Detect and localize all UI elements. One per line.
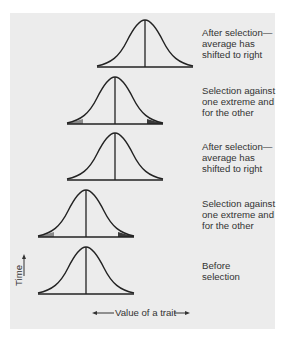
trait-left-arrow-icon [92,311,114,315]
stage-label-after-selection-middle: After selection— average has shifted to … [202,141,272,174]
stage-label-after-selection-top: After selection— average has shifted to … [202,27,272,60]
stage-label-before-selection: Before selection [202,260,240,282]
stage-label-selection-1: Selection against one extreme and for th… [202,198,275,231]
left-tail-shading [67,119,83,124]
right-tail-shading [147,119,163,124]
y-axis-label: Time [13,265,24,286]
stage-label-selection-2: Selection against one extreme and for th… [202,85,275,118]
distribution-curve-selection-1 [38,190,134,237]
distribution-curve-before-selection [38,247,134,294]
trait-right-arrow-icon [174,311,190,315]
distribution-curve-after-selection-middle [67,133,163,180]
distribution-curve-selection-2 [67,77,163,124]
x-axis-label: Value of a trait [115,307,176,318]
left-tail-shading [38,232,54,237]
distribution-curve-after-selection-top [97,20,193,67]
right-tail-shading [118,232,134,237]
